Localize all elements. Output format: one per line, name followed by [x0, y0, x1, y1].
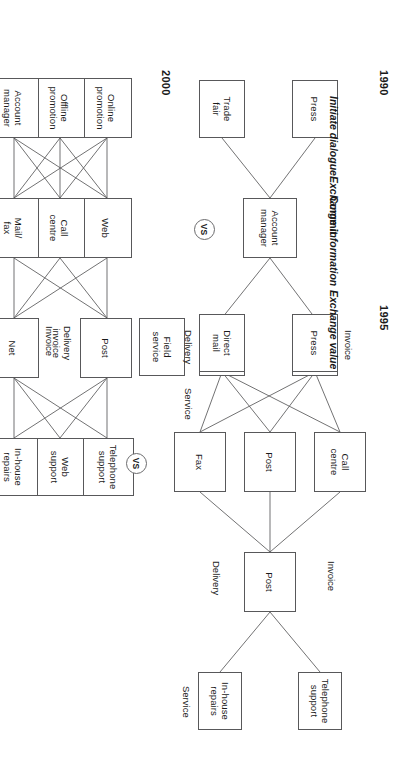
- edge-label-1990-delivery: Delivery: [183, 330, 194, 364]
- vs-badge-1995: VS: [126, 453, 147, 474]
- node-1990-field-service[interactable]: Fieldservice: [139, 318, 185, 376]
- node-1995-fax[interactable]: Fax: [174, 432, 226, 492]
- node-label: Mail/fax: [2, 216, 24, 241]
- node-2000-mail-fax[interactable]: Mail/fax: [0, 198, 39, 258]
- node-label: Net: [8, 338, 19, 357]
- edge-label-1995-delivery: Delivery: [211, 561, 222, 595]
- edge-label-1995-invoice: Invoice: [326, 561, 337, 591]
- stage-label-exchange-value: Exchange value: [328, 290, 340, 369]
- node-label: Directmail: [211, 328, 233, 357]
- node-2000-account-manager[interactable]: Accountmanager: [0, 78, 39, 138]
- edge-label-1990-service: Service: [183, 388, 194, 420]
- node-2000-online-promotion[interactable]: Onlinepromotion: [80, 78, 132, 138]
- node-label: Fax: [195, 452, 206, 472]
- node-label: Post: [265, 570, 276, 593]
- node-1995-in-house-repairs[interactable]: In-houserepairs: [198, 672, 242, 730]
- node-1990-account-manager[interactable]: Accountmanager: [243, 198, 297, 258]
- node-label: Websupport: [49, 449, 71, 485]
- node-label: Press: [310, 95, 321, 124]
- node-1995-telephone-support[interactable]: Telephonesupport: [298, 672, 342, 730]
- node-label: Offlinepromotion: [48, 84, 70, 131]
- node-1995-post[interactable]: Post: [244, 432, 296, 492]
- node-label: Accountmanager: [259, 207, 281, 249]
- node-label: Onlinepromotion: [95, 84, 117, 131]
- node-label: Telephonesupport: [309, 677, 331, 726]
- node-1990-trade-fair[interactable]: Tradefair: [199, 80, 245, 138]
- node-label: Callcentre: [329, 446, 351, 477]
- node-label: Web: [101, 216, 112, 240]
- node-2000-post[interactable]: Post: [80, 318, 132, 378]
- node-2000-call-centre[interactable]: Callcentre: [33, 198, 85, 258]
- year-label-2000: 2000: [160, 70, 172, 96]
- year-label-1995: 1995: [378, 305, 390, 331]
- node-2000-net[interactable]: Net: [0, 318, 39, 378]
- node-label: Tradefair: [211, 95, 233, 124]
- node-label: In-houserepairs: [209, 680, 231, 722]
- node-1995-call-centre[interactable]: Callcentre: [314, 432, 366, 492]
- edge-label-1995-service: Service: [181, 686, 192, 718]
- stage-label-commit: Commit: [328, 196, 340, 235]
- vs-badge-1990: VS: [194, 219, 215, 240]
- node-label: Accountmanager: [2, 87, 24, 129]
- node-2000-offline-promotion[interactable]: Offlinepromotion: [33, 78, 85, 138]
- node-1995-direct-mail[interactable]: Directmail: [199, 314, 245, 372]
- stage-label-initiate-dialogue: Initiate dialogue: [328, 96, 340, 176]
- node-1995-post-delivery[interactable]: Post: [244, 552, 296, 612]
- node-label: Callcentre: [48, 212, 70, 243]
- node-2000-web-support[interactable]: Websupport: [36, 438, 84, 496]
- node-label: Press: [310, 329, 321, 358]
- node-label: Telephonesupport: [97, 443, 119, 492]
- node-label: Post: [265, 450, 276, 473]
- node-2000-in-house-repairs[interactable]: In-houserepairs: [0, 438, 38, 496]
- edge-label-2000-invoice: Invoice: [44, 326, 55, 356]
- diagram-canvas: 1990 1995 2000 Initiate dialogue Exchang…: [0, 0, 400, 766]
- node-label: Fieldservice: [151, 330, 173, 365]
- edge-label-1990-invoice: Invoice: [343, 330, 354, 360]
- year-label-1990: 1990: [378, 70, 390, 96]
- node-label: In-houserepairs: [2, 446, 24, 488]
- node-2000-web[interactable]: Web: [80, 198, 132, 258]
- node-label: Post: [101, 336, 112, 359]
